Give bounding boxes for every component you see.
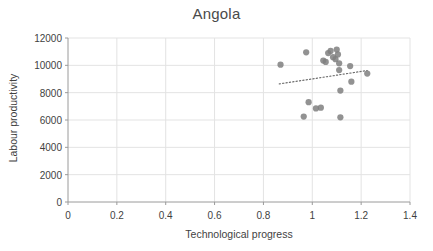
y-tick-label: 6000	[8, 115, 62, 126]
data-point	[337, 87, 343, 93]
x-tick-label: 0.6	[208, 210, 222, 221]
data-point	[348, 79, 354, 85]
data-point	[305, 99, 311, 105]
y-tick-label: 0	[8, 197, 62, 208]
data-point	[318, 105, 324, 111]
x-tick-label: 0	[65, 210, 71, 221]
x-tick-label: 0.4	[159, 210, 173, 221]
y-tick-label: 4000	[8, 142, 62, 153]
data-point	[327, 48, 333, 54]
data-point	[364, 70, 370, 76]
scatter-chart: Angola Labour productivity Technological…	[0, 0, 433, 251]
x-tick-label: 1.2	[354, 210, 368, 221]
y-tick-label: 2000	[8, 169, 62, 180]
grid-lines	[68, 38, 410, 202]
x-tick-label: 1.4	[403, 210, 417, 221]
data-point	[337, 114, 343, 120]
y-tick-label: 12000	[8, 33, 62, 44]
data-point	[277, 62, 283, 68]
data-point	[301, 113, 307, 119]
data-point	[335, 51, 341, 57]
data-point	[323, 59, 329, 65]
x-tick-label: 1	[310, 210, 316, 221]
data-point	[303, 49, 309, 55]
y-tick-label: 10000	[8, 60, 62, 71]
data-points	[277, 46, 370, 120]
y-tick-label: 8000	[8, 87, 62, 98]
data-point	[347, 63, 353, 69]
data-point	[336, 60, 342, 66]
data-point	[336, 67, 342, 73]
x-tick-label: 0.2	[110, 210, 124, 221]
x-tick-label: 0.8	[256, 210, 270, 221]
